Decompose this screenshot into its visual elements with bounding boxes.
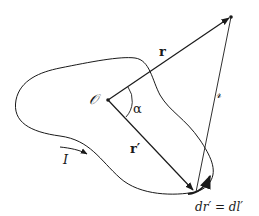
- diagram-canvas: 𝒪 r α r′ 𝓇 I dr′ = dl′: [0, 0, 259, 216]
- origin-point: [106, 98, 110, 102]
- separation-vector: [196, 17, 231, 192]
- r-prime-label: r′: [130, 142, 140, 155]
- r-label: r: [159, 45, 166, 58]
- field-point: [229, 15, 233, 19]
- current-label: I: [63, 153, 68, 166]
- vector-r: [108, 18, 229, 100]
- current-loop: [15, 58, 213, 195]
- line-element-label: dr′ = dl′: [195, 201, 243, 213]
- script-r-label: 𝓇: [216, 88, 221, 100]
- vector-r-prime: [108, 100, 193, 190]
- alpha-label: α: [133, 102, 142, 115]
- origin-label: 𝒪: [89, 92, 98, 106]
- angle-arc: [126, 87, 132, 117]
- diagram-graphics: [0, 0, 259, 216]
